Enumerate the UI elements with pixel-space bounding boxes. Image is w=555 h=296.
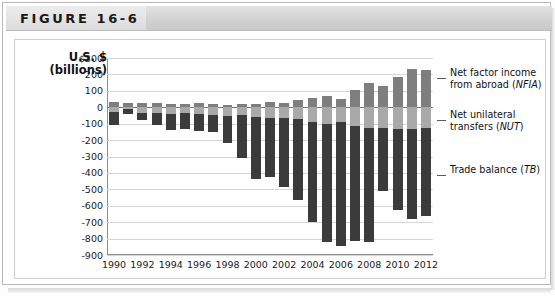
bar-group <box>378 58 388 255</box>
y-tick-label: $300 <box>69 54 103 63</box>
bar-group <box>350 58 360 255</box>
y-tick-label: -200 <box>69 136 103 145</box>
bar-segment-tb <box>378 128 388 191</box>
figure-header-band: FIGURE 16-6 <box>6 6 552 31</box>
bar-segment-tb <box>137 113 147 119</box>
y-tick-label: 100 <box>69 86 103 95</box>
bar-segment-nut <box>237 107 247 115</box>
x-tick-label: 2010 <box>385 259 409 270</box>
frame-shadow-right <box>551 8 555 290</box>
figure-container: FIGURE 16-6 U.S. $ (billions) $300200100… <box>0 0 555 296</box>
bar-segment-nut <box>293 107 303 119</box>
bar-segment-nfia <box>393 77 403 107</box>
y-tick-label: -300 <box>69 152 103 161</box>
bar-segment-tb <box>279 118 289 187</box>
frame-shadow-bottom <box>8 288 551 293</box>
bar-segment-nut <box>194 107 204 114</box>
bar-segment-tb <box>364 128 374 243</box>
bar-segment-nut <box>208 107 218 114</box>
bar-segment-nut <box>308 107 318 121</box>
bar-segment-tb <box>350 126 360 241</box>
bar-group <box>393 58 403 255</box>
bar-group <box>407 58 417 255</box>
legend-dash-nut <box>437 120 446 121</box>
bar-segment-tb <box>407 129 417 219</box>
bar-segment-nut <box>223 107 233 116</box>
x-tick-label: 2012 <box>414 259 438 270</box>
y-axis-tick-labels: $3002001000-100-200-300-400-500-600-700-… <box>65 58 103 255</box>
y-tick-label: -700 <box>69 218 103 227</box>
y-tick-label: -800 <box>69 234 103 243</box>
bar-segment-nut <box>350 107 360 126</box>
x-tick-label: 1994 <box>159 259 183 270</box>
bar-segment-tb <box>322 124 332 241</box>
bar-segment-nut <box>421 107 431 128</box>
x-tick-label: 1992 <box>130 259 154 270</box>
figure-outer-frame: FIGURE 16-6 U.S. $ (billions) $300200100… <box>2 2 551 285</box>
bar-segment-nut <box>407 107 417 129</box>
bar-segment-nfia <box>378 86 388 107</box>
bar-group <box>265 58 275 255</box>
bar-segment-nfia <box>322 96 332 108</box>
bar-segment-nut <box>393 107 403 129</box>
bar-segment-tb <box>109 112 119 125</box>
bar-segment-tb <box>336 122 346 246</box>
bar-segment-nut <box>364 107 374 128</box>
bar-group <box>421 58 431 255</box>
x-tick-label: 2002 <box>272 259 296 270</box>
x-tick-label: 1996 <box>187 259 211 270</box>
bar-group <box>123 58 133 255</box>
bar-segment-nfia <box>308 98 318 108</box>
x-tick-label: 1998 <box>215 259 239 270</box>
figure-number-label: FIGURE 16-6 <box>20 11 140 26</box>
bar-segment-tb <box>123 109 133 114</box>
bar-group <box>137 58 147 255</box>
legend-dash-nfia <box>437 78 446 79</box>
bar-group <box>166 58 176 255</box>
gridline <box>107 255 433 256</box>
y-tick-label: -500 <box>69 185 103 194</box>
bar-segment-nut <box>251 107 261 117</box>
bar-segment-tb <box>237 115 247 158</box>
bar-group <box>293 58 303 255</box>
bar-segment-nfia <box>336 99 346 107</box>
bar-segment-tb <box>194 114 204 131</box>
bar-segment-tb <box>180 113 190 129</box>
bar-group <box>322 58 332 255</box>
bar-segment-nfia <box>364 83 374 108</box>
bar-segment-tb <box>223 116 233 143</box>
legend-dash-tb <box>437 175 446 176</box>
bar-segment-tb <box>393 129 403 210</box>
bar-group <box>308 58 318 255</box>
bar-segment-nfia <box>421 70 431 107</box>
bar-segment-tb <box>421 128 431 216</box>
bar-segment-tb <box>293 119 303 200</box>
bar-segment-nut <box>336 107 346 122</box>
x-tick-label: 2008 <box>357 259 381 270</box>
bar-segment-nut <box>322 107 332 124</box>
bar-segment-tb <box>265 118 275 177</box>
y-tick-label: -100 <box>69 119 103 128</box>
bar-segment-nfia <box>350 90 360 107</box>
bar-segment-nut <box>265 107 275 118</box>
y-tick-label: -900 <box>69 251 103 260</box>
y-tick-label: 0 <box>69 103 103 112</box>
y-tick-label: 200 <box>69 70 103 79</box>
bar-group <box>237 58 247 255</box>
bar-segment-tb <box>166 114 176 130</box>
bar-segment-tb <box>152 113 162 124</box>
bar-group <box>336 58 346 255</box>
y-tick-label: -400 <box>69 168 103 177</box>
x-tick-label: 2004 <box>300 259 324 270</box>
bar-segment-tb <box>308 122 318 222</box>
bar-segment-nfia <box>407 69 417 107</box>
legend-label-nfia: Net factor incomefrom abroad (NFIA) <box>450 67 555 90</box>
y-tick-label: -600 <box>69 201 103 210</box>
x-tick-label: 2000 <box>244 259 268 270</box>
bar-group <box>152 58 162 255</box>
x-tick-label: 1990 <box>102 259 126 270</box>
bar-segment-nfia <box>293 100 303 107</box>
bar-group <box>223 58 233 255</box>
bar-group <box>279 58 289 255</box>
bar-group <box>194 58 204 255</box>
